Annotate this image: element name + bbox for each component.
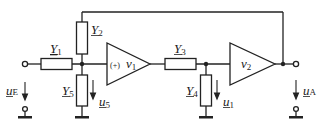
arrow-down-icon — [23, 94, 28, 100]
label-amp1-sign: (+) — [110, 61, 120, 70]
resistor-y2 — [77, 22, 88, 54]
label-ue: uE — [6, 83, 19, 98]
ground-icon — [199, 116, 213, 119]
arrow-down-icon — [294, 93, 299, 99]
junction-node — [80, 62, 84, 66]
label-ua: uA — [303, 83, 317, 98]
resistor-y1 — [41, 59, 72, 70]
arrow-down-icon — [215, 93, 220, 99]
resistor-y5 — [77, 75, 88, 106]
amplifier-2 — [230, 43, 275, 85]
ground-icon — [75, 116, 89, 119]
ground-icon — [289, 116, 303, 119]
arrow-down-icon — [91, 93, 96, 99]
output-terminal — [293, 61, 298, 66]
junction-node — [204, 62, 208, 66]
circuit-diagram: Y1 Y2 Y5 Y3 Y4 (+) v1 v2 uE u5 u1 uA — [0, 0, 323, 129]
resistor-y3 — [165, 59, 196, 70]
ground-icon — [18, 116, 32, 119]
input-terminal — [22, 61, 27, 66]
output-ground-terminal — [294, 107, 299, 112]
input-ground-terminal — [23, 107, 28, 112]
junction-node — [281, 62, 285, 66]
resistor-y4 — [201, 75, 212, 106]
